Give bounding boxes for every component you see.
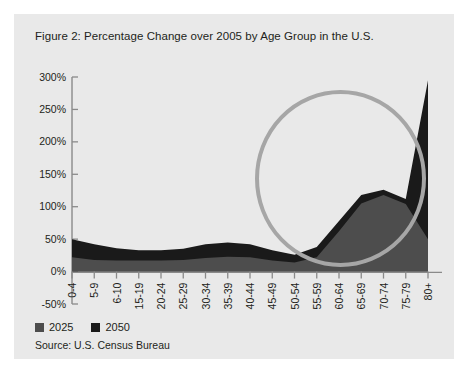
figure-title: Figure 2: Percentage Change over 2005 by… [35, 30, 374, 42]
x-axis-tick-label: 65-69 [355, 282, 367, 309]
y-axis-tick-label: 100% [39, 200, 66, 212]
chart-legend: 20252050 [35, 321, 139, 333]
x-axis-tick-label: 60-64 [333, 282, 345, 309]
chart-plot-area: 300%250%200%150%100%50%0%-50% 0-45-96-10… [14, 52, 454, 314]
x-axis-tick-label: 5-9 [88, 282, 100, 297]
figure-card: Figure 2: Percentage Change over 2005 by… [14, 14, 454, 359]
legend-swatch-2025 [35, 323, 44, 332]
x-axis-tick-label: 20-24 [155, 282, 167, 309]
x-axis-tick-label: 0-4 [66, 282, 78, 297]
series-areas [72, 80, 428, 271]
x-axis-tick-label: 40-44 [244, 282, 256, 309]
y-axis-tick-labels: 300%250%200%150%100%50%0%-50% [39, 71, 66, 310]
y-axis-tick-label: 250% [39, 103, 66, 115]
y-axis-tick-label: 0% [51, 265, 66, 277]
legend-label: 2025 [49, 321, 73, 333]
x-axis-tick-label: 30-34 [200, 282, 212, 309]
y-axis-tick-label: -50% [41, 298, 66, 310]
x-axis-tick-label: 45-49 [266, 282, 278, 309]
legend-swatch-2050 [91, 323, 100, 332]
legend-entry-2025: 2025 [35, 321, 73, 333]
x-axis-tick-label: 50-54 [289, 282, 301, 309]
legend-entry-2050: 2050 [91, 321, 129, 333]
x-axis-tick-label: 75-79 [400, 282, 412, 309]
x-axis-tick-label: 80+ [422, 283, 434, 301]
area-chart: 300%250%200%150%100%50%0%-50% 0-45-96-10… [14, 52, 454, 314]
x-axis-tick-label: 70-74 [378, 282, 390, 309]
x-axis-tick-label: 35-39 [222, 282, 234, 309]
x-axis-tick-labels: 0-45-96-1015-1920-2425-2930-3435-3940-44… [66, 282, 434, 309]
y-axis-tick-label: 200% [39, 135, 66, 147]
x-axis-tick-label: 6-10 [111, 282, 123, 303]
x-axis-tick-label: 15-19 [133, 282, 145, 309]
y-axis-tick-label: 150% [39, 168, 66, 180]
x-axis-tick-label: 25-29 [177, 282, 189, 309]
source-note: Source: U.S. Census Bureau [35, 339, 170, 351]
y-axis-tick-label: 50% [45, 233, 66, 245]
legend-label: 2050 [105, 321, 129, 333]
y-axis-tick-label: 300% [39, 71, 66, 83]
x-axis-tick-label: 55-59 [311, 282, 323, 309]
